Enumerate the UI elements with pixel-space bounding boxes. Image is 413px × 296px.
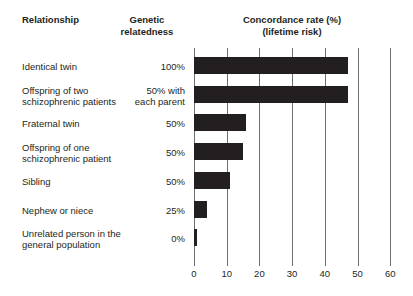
gridline-50 — [358, 48, 359, 261]
x-axis-tick-label-50: 50 — [343, 268, 373, 279]
row-genetic-relatedness-3-line1: 50% — [166, 147, 185, 158]
column-header-genetic-relatedness-line2: relatedness — [108, 26, 186, 38]
row-genetic-relatedness-1: 50% witheach parent — [105, 85, 185, 107]
row-genetic-relatedness-5-line1: 25% — [166, 205, 185, 216]
gridline-20 — [259, 48, 260, 261]
row-genetic-relatedness-3: 50% — [105, 147, 185, 158]
row-genetic-relatedness-0: 100% — [105, 61, 185, 72]
x-axis-tick-30 — [292, 261, 293, 266]
x-axis-tick-label-60: 60 — [375, 268, 405, 279]
row-label-2-line1: Fraternal twin — [22, 118, 80, 129]
row-label-1-line2: schizophrenic patients — [22, 96, 116, 107]
x-axis-tick-40 — [325, 261, 326, 266]
row-label-1-line1: Offspring of two — [22, 85, 88, 96]
gridline-60 — [390, 48, 391, 261]
bar-2 — [194, 114, 246, 131]
x-axis-tick-50 — [358, 261, 359, 266]
concordance-rate-figure: Relationship Genetic relatedness Concord… — [0, 0, 413, 296]
bar-1 — [194, 86, 348, 103]
x-axis-tick-label-0: 0 — [179, 268, 209, 279]
row-genetic-relatedness-1-line2: each parent — [135, 96, 185, 107]
row-genetic-relatedness-6-line1: 0% — [171, 233, 185, 244]
bar-6 — [194, 229, 197, 246]
row-label-5-line1: Nephew or niece — [22, 205, 93, 216]
x-axis-tick-label-40: 40 — [310, 268, 340, 279]
row-label-6-line2: general population — [22, 239, 100, 250]
column-header-relationship: Relationship — [22, 14, 79, 26]
x-axis-tick-label-20: 20 — [244, 268, 274, 279]
gridline-30 — [292, 48, 293, 261]
x-axis-tick-label-30: 30 — [277, 268, 307, 279]
x-axis-tick-20 — [259, 261, 260, 266]
column-header-concordance-rate: Concordance rate (%) (lifetime risk) — [194, 14, 390, 37]
bar-3 — [194, 143, 243, 160]
gridline-40 — [325, 48, 326, 261]
row-genetic-relatedness-2-line1: 50% — [166, 118, 185, 129]
column-header-genetic-relatedness: Genetic relatedness — [108, 14, 186, 37]
row-label-4-line1: Sibling — [22, 176, 51, 187]
column-header-concordance-rate-line1: Concordance rate (%) — [243, 14, 341, 25]
column-header-genetic-relatedness-line1: Genetic — [130, 14, 165, 25]
x-axis-tick-label-10: 10 — [212, 268, 242, 279]
row-genetic-relatedness-2: 50% — [105, 118, 185, 129]
row-genetic-relatedness-4: 50% — [105, 176, 185, 187]
row-label-3-line2: schizophrenic patient — [22, 153, 111, 164]
bar-4 — [194, 172, 230, 189]
bar-5 — [194, 201, 207, 218]
row-genetic-relatedness-5: 25% — [105, 205, 185, 216]
column-header-concordance-rate-line2: (lifetime risk) — [194, 26, 390, 38]
row-label-0-line1: Identical twin — [22, 61, 77, 72]
row-label-3-line1: Offspring of one — [22, 142, 89, 153]
x-axis-tick-10 — [227, 261, 228, 266]
x-axis-tick-0 — [194, 261, 195, 266]
x-axis-tick-60 — [390, 261, 391, 266]
row-genetic-relatedness-0-line1: 100% — [161, 61, 185, 72]
row-genetic-relatedness-1-line1: 50% with — [146, 85, 185, 96]
bar-0 — [194, 57, 348, 74]
row-genetic-relatedness-6: 0% — [105, 233, 185, 244]
row-genetic-relatedness-4-line1: 50% — [166, 176, 185, 187]
